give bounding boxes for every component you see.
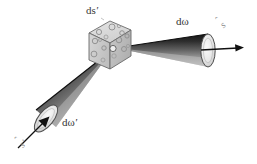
scattering-volume-cube <box>89 21 131 69</box>
outgoing-arrow-head <box>235 44 244 51</box>
scattering-point <box>110 45 116 51</box>
scattering-diagram: ds′ dω dω′ ˆs ˆs′ <box>0 0 257 164</box>
volume-element-label: ds′ <box>86 5 98 16</box>
outgoing-solid-angle-text: dω <box>176 15 189 27</box>
diagram-canvas <box>0 0 257 164</box>
incoming-solid-angle-prime: ′ <box>75 116 77 128</box>
outgoing-solid-angle-label: dω <box>176 16 189 27</box>
volume-label-leader <box>101 18 104 20</box>
incoming-solid-angle-text: dω <box>62 116 75 128</box>
incoming-solid-angle-label: dω′ <box>62 117 77 128</box>
volume-element-prime: ′ <box>96 4 98 16</box>
volume-element-text: ds <box>86 4 96 16</box>
